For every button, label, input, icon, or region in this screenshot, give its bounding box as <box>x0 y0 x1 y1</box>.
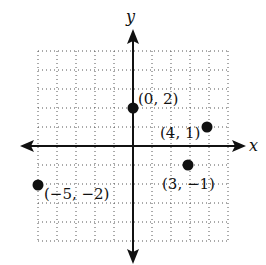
point-label-4-1: (4, 1) <box>160 124 200 142</box>
point-3-neg1 <box>183 160 194 171</box>
coordinate-plane: x y (0, 2) (4, 1) (3, −1) (−5, −2) <box>0 0 266 265</box>
x-axis-label: x <box>249 136 258 155</box>
point-label-0-2: (0, 2) <box>138 90 178 108</box>
point-label-3-neg1: (3, −1) <box>162 175 215 193</box>
point-label-neg5-neg2: (−5, −2) <box>44 185 109 203</box>
point-4-1 <box>202 122 213 133</box>
axes: x y <box>20 7 258 264</box>
y-axis-label: y <box>125 7 136 26</box>
point-neg5-neg2 <box>33 180 44 191</box>
point-0-2 <box>128 103 139 114</box>
